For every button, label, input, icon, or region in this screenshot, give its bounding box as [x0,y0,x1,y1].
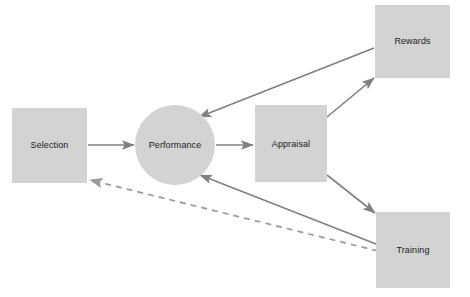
node-performance[interactable]: Performance [135,105,215,185]
node-performance-label: Performance [149,140,202,150]
node-selection-label: Selection [31,140,69,150]
edge-appraisal-to-rewards [327,78,374,117]
flow-diagram: Selection Performance Appraisal Rewards … [0,0,470,297]
edge-training-to-selection [90,180,378,251]
node-rewards-label: Rewards [394,36,431,46]
node-appraisal[interactable]: Appraisal [255,105,327,182]
edge-training-to-performance [200,175,376,244]
node-rewards[interactable]: Rewards [375,5,450,78]
node-appraisal-label: Appraisal [272,139,310,149]
edge-layer [88,48,378,251]
node-selection[interactable]: Selection [12,108,87,183]
node-training-label: Training [397,245,430,255]
diagram-canvas: Selection Performance Appraisal Rewards … [0,0,470,297]
edge-appraisal-to-training [327,175,375,213]
node-training[interactable]: Training [376,212,450,288]
